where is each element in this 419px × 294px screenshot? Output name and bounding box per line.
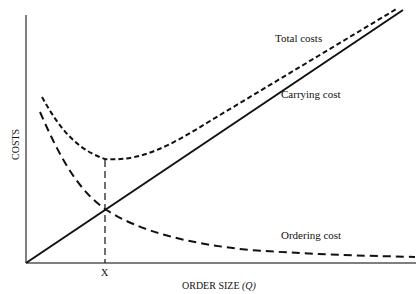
carrying-cost-label: Carrying cost (281, 88, 341, 100)
x-axis-title-text: ORDER SIZE (182, 280, 242, 291)
x-axis-variable: (Q) (242, 280, 257, 292)
x-tick-label: X (101, 267, 109, 278)
total-costs-label: Total costs (275, 32, 322, 44)
carrying-cost-line (26, 10, 403, 263)
eoq-chart: Total costs Carrying cost Ordering cost … (0, 0, 419, 294)
y-axis-title: COSTS (10, 129, 21, 160)
ordering-cost-label: Ordering cost (281, 229, 341, 241)
total-costs-curve (42, 8, 398, 159)
x-axis-title: ORDER SIZE (Q) (182, 280, 257, 292)
ordering-cost-curve (40, 112, 415, 257)
